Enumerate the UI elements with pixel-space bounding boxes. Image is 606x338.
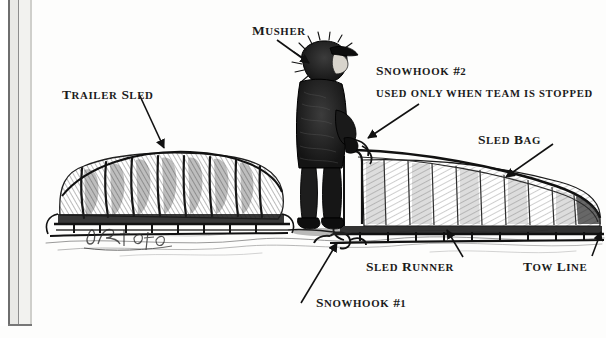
- label-sled-runner: SLED RUNNER: [366, 258, 454, 275]
- sled-rig-drawing: [0, 0, 606, 338]
- label-tow-line: TOW LINE: [523, 258, 588, 275]
- label-trailer-sled: TRAILER SLED: [62, 86, 154, 103]
- label-tow-line-text: TOW LINE: [523, 259, 588, 274]
- label-snowhook-2-note: USED ONLY WHEN TEAM IS STOPPED: [376, 88, 593, 99]
- illustration-page: TRAILER SLED MUSHER SNOWHOOK #2 USED ONL…: [0, 0, 606, 338]
- main-sled: [330, 150, 604, 243]
- label-musher-text: MUSHER: [252, 23, 306, 38]
- label-snowhook-2-text: SNOWHOOK #2: [376, 63, 466, 78]
- trailer-sled: [46, 152, 293, 236]
- musher-figure: [292, 32, 358, 236]
- label-sled-bag-text: SLED BAG: [478, 132, 541, 147]
- label-sled-bag: SLED BAG: [478, 131, 541, 148]
- label-snowhook-1: SNOWHOOK #1: [316, 294, 406, 311]
- label-snowhook-2: SNOWHOOK #2: [376, 62, 466, 79]
- label-sled-runner-text: SLED RUNNER: [366, 259, 454, 274]
- label-trailer-sled-text: TRAILER SLED: [62, 87, 154, 102]
- artist-signature: [84, 230, 172, 251]
- label-snowhook-1-text: SNOWHOOK #1: [316, 295, 406, 310]
- label-musher: MUSHER: [252, 22, 306, 39]
